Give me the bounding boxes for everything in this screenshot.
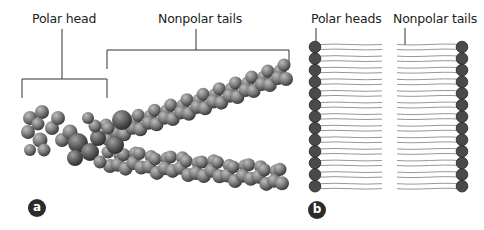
- polar-head-circle: [309, 76, 321, 88]
- polar-head-circle: [456, 41, 468, 53]
- polar-head-circle: [309, 122, 321, 134]
- polar-head-circle: [456, 64, 468, 76]
- polar-head-circle: [456, 122, 468, 134]
- polar-head-circle: [456, 88, 468, 100]
- polar-head-circle: [309, 169, 321, 181]
- polar-head-circle: [309, 146, 321, 158]
- polar-head-circle: [456, 134, 468, 146]
- polar-head-circle: [309, 157, 321, 169]
- panel-b-badge: b: [308, 201, 326, 219]
- polar-head-circle: [309, 88, 321, 100]
- polar-head-circle: [456, 53, 468, 65]
- polar-head-circle: [456, 111, 468, 123]
- polar-head-circle: [456, 99, 468, 111]
- polar-head-circle: [309, 134, 321, 146]
- polar-head-circle: [309, 99, 321, 111]
- polar-head-circle: [456, 180, 468, 192]
- polar-head-circle: [309, 180, 321, 192]
- polar-head-circle: [456, 146, 468, 158]
- polar-head-circle: [456, 76, 468, 88]
- bilayer-schematic: [0, 0, 484, 230]
- polar-head-circle: [309, 53, 321, 65]
- polar-head-circle: [309, 111, 321, 123]
- polar-head-circle: [456, 169, 468, 181]
- polar-head-circle: [309, 41, 321, 53]
- polar-head-circle: [456, 157, 468, 169]
- polar-head-circle: [309, 64, 321, 76]
